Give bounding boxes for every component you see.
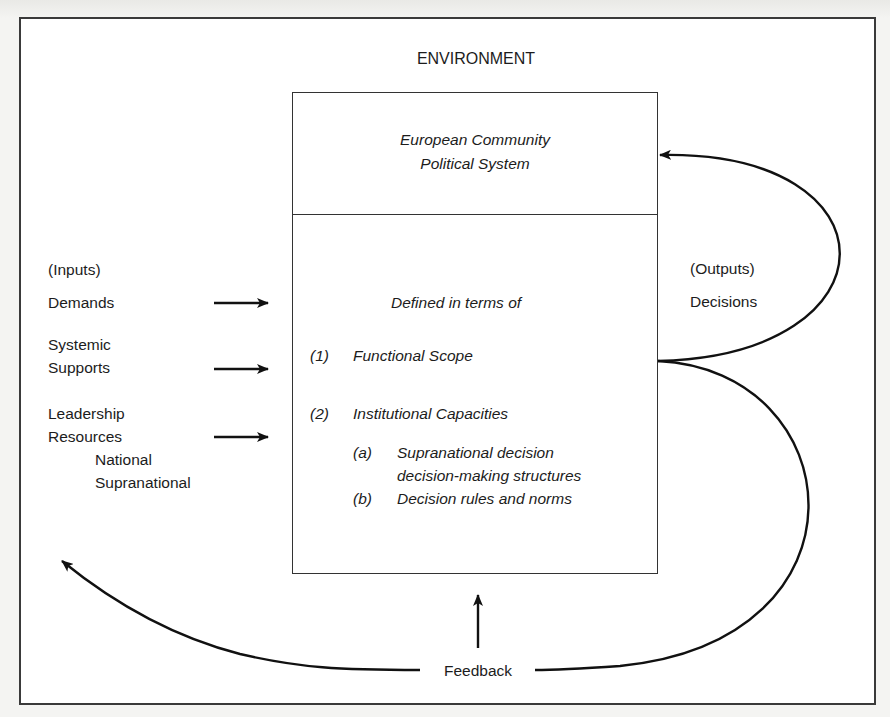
feedback-loop-curve <box>535 361 809 670</box>
output-loop-arrow-icon <box>658 155 840 361</box>
feedback-return-arrow-icon <box>62 561 420 670</box>
connector-layer <box>0 0 890 717</box>
